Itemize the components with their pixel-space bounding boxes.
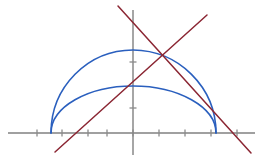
plot-svg [0,0,262,160]
plot-canvas [0,0,262,160]
ascending-line [55,15,207,152]
lines-group [55,6,251,153]
